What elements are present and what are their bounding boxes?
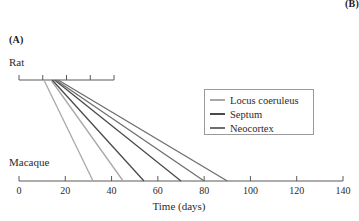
legend-swatch-neocortex: [210, 127, 225, 129]
legend-item: Septum: [210, 107, 313, 121]
rat-axis: [19, 75, 114, 80]
svg-text:0: 0: [17, 185, 22, 196]
legend-label-locus-coeruleus: Locus coeruleus: [230, 95, 299, 106]
legend-item: Locus coeruleus: [210, 93, 313, 107]
svg-text:60: 60: [153, 185, 163, 196]
legend-item: Neocortex: [210, 121, 313, 135]
connector-lines: [44, 80, 227, 181]
svg-text:20: 20: [60, 185, 70, 196]
legend: Locus coeruleus Septum Neocortex: [204, 89, 314, 135]
svg-text:120: 120: [289, 185, 304, 196]
legend-label-neocortex: Neocortex: [230, 123, 274, 134]
x-axis-title: Time (days): [0, 200, 358, 212]
svg-text:40: 40: [107, 185, 117, 196]
macaque-tick-labels: 020406080100120140: [17, 185, 351, 196]
svg-text:80: 80: [199, 185, 209, 196]
svg-text:100: 100: [243, 185, 258, 196]
svg-text:140: 140: [336, 185, 351, 196]
legend-swatch-locus-coeruleus: [210, 99, 225, 101]
legend-swatch-septum: [210, 113, 225, 115]
legend-label-septum: Septum: [230, 109, 262, 120]
